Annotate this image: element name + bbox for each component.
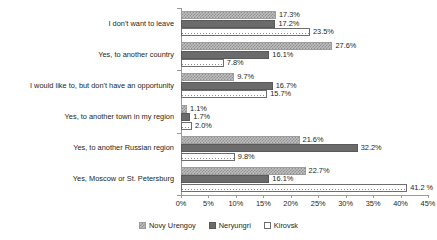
legend-label: Kirovsk	[274, 221, 298, 230]
bar-row: 9.7%	[181, 73, 428, 81]
bar-0[interactable]	[181, 42, 332, 50]
bar-row: 17.2%	[181, 20, 428, 28]
legend-swatch-icon	[264, 222, 271, 229]
category-group: Yes, to another town in my region1.1%1.7…	[181, 102, 428, 133]
bar-value-label: 9.8%	[238, 152, 255, 161]
bar-value-label: 41.2 %	[410, 183, 433, 192]
category-group: Yes, Moscow or St. Petersburg22.7%16.1%4…	[181, 164, 428, 195]
legend-item-2[interactable]: Kirovsk	[264, 221, 298, 230]
legend-item-1[interactable]: Neryungri	[209, 221, 251, 230]
bar-2[interactable]	[181, 28, 310, 36]
bar-row: 1.1%	[181, 105, 428, 113]
x-axis-tick	[208, 195, 209, 198]
x-axis-label: 35%	[358, 199, 388, 208]
bar-row: 22.7%	[181, 167, 428, 175]
x-axis-label: 5%	[193, 199, 223, 208]
bar-value-label: 17.2%	[278, 19, 299, 28]
bar-value-label: 7.8%	[227, 58, 244, 67]
y-axis-tick	[177, 8, 181, 9]
bar-value-label: 27.6%	[335, 41, 356, 50]
x-axis-label: 20%	[276, 199, 306, 208]
plot-area: I don't want to leave17.3%17.2%23.5%Yes,…	[181, 8, 428, 195]
x-axis-label: 30%	[331, 199, 361, 208]
bar-2[interactable]	[181, 90, 267, 98]
bar-0[interactable]	[181, 11, 276, 19]
bar-1[interactable]	[181, 82, 273, 90]
bar-value-label: 22.7%	[309, 166, 330, 175]
x-axis-label: 15%	[248, 199, 278, 208]
category-group: Yes, to another Russian region21.6%32.2%…	[181, 133, 428, 164]
bar-2[interactable]	[181, 153, 235, 161]
bar-value-label: 2.0%	[195, 121, 212, 130]
category-label: Yes, to another Russian region	[2, 143, 174, 152]
bar-0[interactable]	[181, 73, 234, 81]
category-label: Yes, to another country	[2, 50, 174, 59]
bar-0[interactable]	[181, 136, 300, 144]
x-axis-tick	[346, 195, 347, 198]
bar-1[interactable]	[181, 20, 275, 28]
x-axis-tick	[236, 195, 237, 198]
legend-item-0[interactable]: Novy Urengoy	[139, 221, 196, 230]
bar-2[interactable]	[181, 184, 407, 192]
bar-1[interactable]	[181, 113, 190, 121]
legend-label: Novy Urengoy	[149, 221, 196, 230]
category-label: I don't want to leave	[2, 19, 174, 28]
bar-value-label: 32.2%	[361, 143, 382, 152]
chart-legend: Novy UrengoyNeryungriKirovsk	[0, 221, 437, 230]
bar-1[interactable]	[181, 51, 269, 59]
bar-row: 16.7%	[181, 82, 428, 90]
category-group: I don't want to leave17.3%17.2%23.5%	[181, 8, 428, 39]
bar-row: 23.5%	[181, 28, 428, 36]
x-axis-tick	[428, 195, 429, 198]
bar-row: 15.7%	[181, 90, 428, 98]
bar-row: 27.6%	[181, 42, 428, 50]
bar-1[interactable]	[181, 175, 269, 183]
bar-value-label: 21.6%	[303, 135, 324, 144]
bar-row: 21.6%	[181, 136, 428, 144]
x-axis-label: 40%	[386, 199, 416, 208]
bar-row: 16.1%	[181, 51, 428, 59]
bar-row: 32.2%	[181, 144, 428, 152]
legend-swatch-icon	[209, 222, 216, 229]
category-label: I would like to, but don't have an oppor…	[2, 81, 174, 90]
bar-value-label: 23.5%	[313, 27, 334, 36]
legend-swatch-icon	[139, 222, 146, 229]
bar-row: 9.8%	[181, 153, 428, 161]
bar-row: 41.2 %	[181, 184, 428, 192]
bar-2[interactable]	[181, 59, 224, 67]
bar-row: 7.8%	[181, 59, 428, 67]
bar-chart: I don't want to leave17.3%17.2%23.5%Yes,…	[0, 0, 437, 240]
bar-value-label: 16.1%	[272, 50, 293, 59]
category-group: Yes, to another country27.6%16.1%7.8%	[181, 39, 428, 70]
x-axis-tick	[401, 195, 402, 198]
category-group: I would like to, but don't have an oppor…	[181, 70, 428, 101]
legend-label: Neryungri	[219, 221, 251, 230]
category-label: Yes, to another town in my region	[2, 112, 174, 121]
bar-value-label: 16.1%	[272, 174, 293, 183]
x-axis-label: 45%	[413, 199, 437, 208]
bar-value-label: 15.7%	[270, 89, 291, 98]
x-axis-tick	[318, 195, 319, 198]
x-axis-tick	[373, 195, 374, 198]
x-axis-line	[181, 195, 429, 196]
x-axis-label: 10%	[221, 199, 251, 208]
bar-row: 17.3%	[181, 11, 428, 19]
bar-row: 16.1%	[181, 175, 428, 183]
bar-0[interactable]	[181, 105, 187, 113]
x-axis-label: 25%	[303, 199, 333, 208]
x-axis-tick	[291, 195, 292, 198]
bar-row: 2.0%	[181, 122, 428, 130]
bar-1[interactable]	[181, 144, 358, 152]
x-axis-tick	[181, 195, 182, 198]
x-axis-label: 0%	[166, 199, 196, 208]
bar-row: 1.7%	[181, 113, 428, 121]
bar-2[interactable]	[181, 122, 192, 130]
bar-value-label: 9.7%	[237, 72, 254, 81]
x-axis-tick	[263, 195, 264, 198]
category-label: Yes, Moscow or St. Petersburg	[2, 174, 174, 183]
